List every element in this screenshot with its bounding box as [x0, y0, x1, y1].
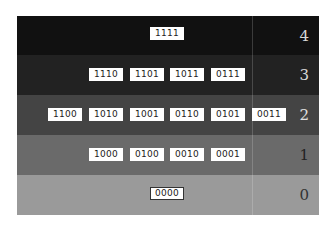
bitstring-node: 1101: [130, 68, 164, 81]
rank-row-1: 10000100001000011: [17, 135, 319, 175]
rank-label: 4: [299, 16, 309, 55]
rank-row-2: 1100101010010110010100112: [17, 95, 319, 135]
rank-column-divider: [252, 16, 253, 215]
bitstring-node: 0011: [252, 108, 286, 121]
bitstring-node: 1011: [170, 68, 204, 81]
bitstring-node: 1001: [130, 108, 164, 121]
rank-label: 1: [299, 135, 309, 175]
bitstring-node: 0001: [211, 148, 245, 161]
bitstring-node: 0010: [170, 148, 204, 161]
bitstring-node: 0110: [170, 108, 204, 121]
bitstring-node: 1111: [150, 27, 184, 40]
rank-row-3: 11101101101101113: [17, 55, 319, 95]
bitstring-node: 1100: [48, 108, 82, 121]
bitstring-node: 0111: [211, 68, 245, 81]
rank-row-0: 00000: [17, 175, 319, 215]
bitstring-node: 0101: [211, 108, 245, 121]
boolean-lattice-diagram: 1111411101101101101113110010101001011001…: [17, 16, 319, 215]
rank-label: 0: [299, 175, 309, 215]
rank-label: 2: [299, 95, 309, 135]
bitstring-node: 1000: [89, 148, 123, 161]
bitstring-node: 0000: [150, 187, 184, 200]
bitstring-node: 1110: [89, 68, 123, 81]
bitstring-node: 0100: [130, 148, 164, 161]
bitstring-node: 1010: [89, 108, 123, 121]
rank-label: 3: [299, 55, 309, 95]
rank-row-4: 11114: [17, 16, 319, 55]
